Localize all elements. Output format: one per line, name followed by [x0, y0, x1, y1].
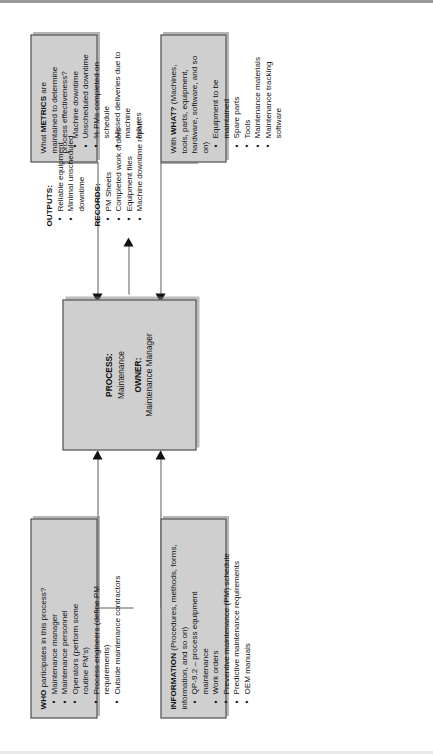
list-item: PM Sheets [103, 106, 114, 217]
list-item: OEM manuals [242, 527, 253, 700]
information-item-list: QP-9.2 – process equipmentmaintenanceWor… [189, 527, 252, 709]
list-item: Work orders [210, 527, 221, 700]
information-box: INFORMATION (Procedures, methods, forms,… [160, 518, 226, 718]
list-item: Reliable equipment [55, 106, 66, 217]
records-item-list: PM SheetsCompleted work ordersEquipment … [103, 106, 145, 226]
arrowhead-information-to-process [155, 450, 165, 459]
records-block: RECORDS: PM SheetsCompleted work ordersE… [92, 106, 145, 226]
list-item: Maintenance manager [49, 527, 60, 700]
list-item: Outside maintenance contractors [112, 527, 123, 700]
outputs-item-list: Reliable equipmentMinimal unscheduled do… [55, 106, 87, 226]
who-item-list: Maintenance managerMaintenance personnel… [49, 527, 123, 709]
list-item: Predictive maintenance requirements [231, 527, 242, 700]
outputs-heading: OUTPUTS: [44, 106, 55, 226]
list-item-continuation: maintenance [200, 527, 211, 700]
with-what-item-list: Equipment to be maintainedSpare partsToo… [210, 43, 284, 153]
owner-value: Maintenance Manager [143, 333, 154, 416]
who-participates-box: WHO participates in this process? Mainte… [30, 518, 97, 718]
list-item: Tools [242, 43, 253, 144]
with-what-box: With WHAT? (Machines, tools, parts, equi… [160, 34, 226, 162]
list-item: Preventive maintenance (PM) schedule [221, 527, 232, 700]
list-item: Maintenance tracking software [263, 43, 284, 144]
diagram-canvas: WHO participates in this process? Mainte… [0, 0, 433, 754]
owner-label: OWNER: [132, 333, 143, 416]
list-item: Spare parts [231, 43, 242, 144]
list-item: Equipment to be maintained [210, 43, 231, 144]
process-box: PROCESS: Maintenance OWNER: Maintenance … [62, 299, 196, 450]
list-item: Equipment files [124, 106, 135, 217]
process-value: Maintenance [115, 351, 126, 399]
process-group: PROCESS: Maintenance [103, 351, 126, 399]
owner-group: OWNER: Maintenance Manager [132, 333, 155, 416]
list-item: Machine downtime report [134, 106, 145, 217]
who-heading: WHO participates in this process? [38, 527, 49, 709]
records-heading: RECORDS: [92, 106, 103, 226]
information-heading: INFORMATION (Procedures, methods, forms,… [168, 527, 189, 709]
list-item: Maintenance materials [252, 43, 263, 144]
arrowhead-who-to-process [92, 450, 102, 459]
list-item: QP-9.2 – process equipment [189, 527, 200, 700]
outputs-block: OUTPUTS: Reliable equipmentMinimal unsch… [44, 106, 86, 226]
list-item: Minimal unscheduled downtime [65, 106, 86, 217]
list-item-continuation: requirements) [101, 527, 112, 700]
list-item: Completed work orders [113, 106, 124, 217]
with-what-heading: With WHAT? (Machines, tools, parts, equi… [168, 43, 210, 153]
list-item-continuation: routine PM's) [80, 527, 91, 700]
page-canvas: WHO participates in this process? Mainte… [0, 0, 433, 754]
list-item: Maintenance personnel [59, 527, 70, 700]
list-item: Operators (perform some [70, 527, 81, 700]
process-label: PROCESS: [103, 351, 114, 399]
list-item: Process engineers (define PM [91, 527, 102, 700]
connector-process-output [128, 244, 129, 294]
connector-with-what-horizontal [160, 162, 161, 294]
arrowhead-process-to-outputs [123, 237, 133, 246]
